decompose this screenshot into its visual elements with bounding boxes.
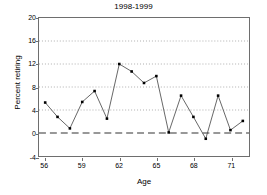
data-point — [242, 120, 245, 123]
y-tick-mark — [36, 41, 39, 42]
data-point — [93, 90, 96, 93]
gridlines — [39, 41, 249, 110]
data-point — [229, 129, 232, 132]
y-tick-label: 20 — [20, 14, 36, 21]
data-point — [143, 82, 146, 85]
y-tick-label: -4 — [20, 154, 36, 161]
data-point — [130, 70, 133, 73]
y-tick-mark — [36, 158, 39, 159]
y-tick-label: 16 — [20, 37, 36, 44]
data-point — [155, 75, 158, 78]
y-tick-mark — [36, 88, 39, 89]
data-point — [56, 116, 59, 119]
x-tick-label: 62 — [109, 162, 129, 169]
chart-container: 1998-1999 -4048121620 565962656871 Age P… — [0, 0, 267, 195]
x-axis-title: Age — [38, 177, 250, 186]
data-point — [217, 94, 220, 97]
data-point — [69, 127, 72, 130]
plot-svg — [39, 18, 249, 156]
y-axis-title-wrapper: Percent retiring — [0, 0, 1, 1]
x-tick-mark — [82, 158, 83, 161]
x-tick-mark — [157, 158, 158, 161]
series-line — [45, 64, 243, 139]
data-point — [167, 131, 170, 134]
data-point — [118, 63, 121, 66]
y-tick-mark — [36, 18, 39, 19]
y-tick-label: 0 — [20, 130, 36, 137]
x-tick-label: 65 — [146, 162, 166, 169]
chart-title: 1998-1999 — [0, 2, 267, 12]
x-tick-mark — [45, 158, 46, 161]
data-point — [81, 101, 84, 104]
x-tick-mark — [120, 158, 121, 161]
data-point — [204, 137, 207, 140]
x-tick-label: 59 — [72, 162, 92, 169]
y-tick-label: 12 — [20, 60, 36, 67]
x-tick-mark — [232, 158, 233, 161]
y-tick-label: 4 — [20, 107, 36, 114]
x-tick-label: 56 — [34, 162, 54, 169]
x-tick-label: 71 — [221, 162, 241, 169]
data-point — [192, 116, 195, 119]
data-point-markers — [44, 63, 244, 140]
x-tick-mark — [194, 158, 195, 161]
data-point — [106, 117, 109, 120]
data-line — [45, 64, 243, 139]
y-tick-mark — [36, 134, 39, 135]
y-tick-mark — [36, 64, 39, 65]
data-point — [44, 101, 47, 104]
x-axis-tick-labels: 565962656871 — [0, 162, 267, 174]
y-tick-label: 8 — [20, 84, 36, 91]
x-tick-label: 68 — [184, 162, 204, 169]
y-tick-mark — [36, 111, 39, 112]
data-point — [180, 94, 183, 97]
y-axis-title: Percent retiring — [13, 38, 22, 128]
plot-area — [38, 17, 250, 157]
